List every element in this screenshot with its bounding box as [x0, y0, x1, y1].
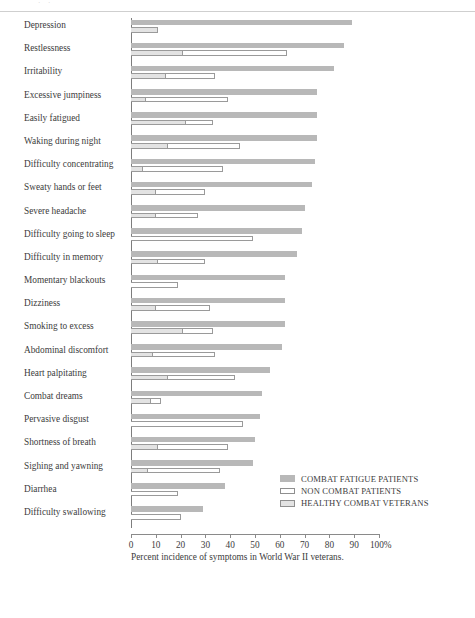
- bar-series-3: [131, 143, 168, 149]
- bar-series-3: [131, 27, 158, 33]
- axis-tick-label: 90: [350, 540, 359, 550]
- bar-row: Irritability: [0, 64, 475, 87]
- bar-group: [131, 366, 401, 389]
- axis-tick-label: 10: [151, 540, 160, 550]
- bar-series-1: [131, 298, 285, 304]
- bar-series-3: [131, 375, 168, 381]
- legend-swatch-icon: [280, 488, 295, 495]
- axis-tick: [280, 534, 281, 538]
- category-label: Easily fatigued: [24, 113, 128, 124]
- category-label: Severe headache: [24, 206, 128, 217]
- axis-tick: [255, 534, 256, 538]
- bar-series-3: [131, 468, 148, 474]
- bar-series-1: [131, 275, 285, 281]
- axis-tick: [329, 534, 330, 538]
- bar-series-3: [131, 97, 146, 103]
- bar-row: Smoking to excess: [0, 319, 475, 342]
- axis-tick-label: 40: [226, 540, 235, 550]
- bar-row: Easily fatigued: [0, 111, 475, 134]
- bar-group: [131, 250, 401, 273]
- bar-row: Pervasive disgust: [0, 412, 475, 435]
- bar-group: [131, 41, 401, 64]
- bar-series-1: [131, 66, 334, 72]
- axis-tick-label: 80: [325, 540, 334, 550]
- category-label: Sweaty hands or feet: [24, 182, 128, 193]
- category-label: Difficulty concentrating: [24, 159, 128, 170]
- axis-tick-label: 70: [300, 540, 309, 550]
- bar-series-1: [131, 483, 225, 489]
- bar-series-3: [131, 444, 158, 450]
- axis-tick: [131, 534, 132, 538]
- bar-series-3: [131, 73, 166, 79]
- bar-series-1: [131, 344, 282, 350]
- bar-row: Momentary blackouts: [0, 273, 475, 296]
- bar-series-1: [131, 159, 315, 165]
- chart-legend: COMBAT FATIGUE PATIENTSNON COMBAT PATIEN…: [280, 473, 470, 510]
- bar-series-2: [131, 282, 178, 288]
- legend-label: HEALTHY COMBAT VETERANS: [301, 498, 429, 508]
- bar-group: [131, 412, 401, 435]
- category-label: Combat dreams: [24, 391, 128, 402]
- legend-item: COMBAT FATIGUE PATIENTS: [280, 473, 470, 484]
- bar-row: Shortness of breath: [0, 435, 475, 458]
- category-label: Difficulty going to sleep: [24, 229, 128, 240]
- bar-group: [131, 227, 401, 250]
- axis-tick: [181, 534, 182, 538]
- bar-series-3: [131, 120, 186, 126]
- page-top-crop-text: · ·: [38, 0, 178, 7]
- bar-series-1: [131, 437, 255, 443]
- axis-tick: [230, 534, 231, 538]
- bar-row: Sweaty hands or feet: [0, 180, 475, 203]
- bar-group: [131, 273, 401, 296]
- figure-page: · · DepressionRestlessnessIrritabilityEx…: [0, 0, 475, 618]
- axis-tick-label: 0: [129, 540, 134, 550]
- bar-series-1: [131, 20, 352, 26]
- axis-tick-label: 50: [250, 540, 259, 550]
- bar-series-3: [131, 166, 143, 172]
- bar-group: [131, 18, 401, 41]
- bar-series-3: [131, 352, 153, 358]
- category-label: Heart palpitating: [24, 368, 128, 379]
- figure-caption: Percent incidence of symptoms in World W…: [131, 552, 451, 562]
- axis-tick-label: 30: [201, 540, 210, 550]
- bar-series-1: [131, 321, 285, 327]
- bar-group: [131, 389, 401, 412]
- legend-item: HEALTHY COMBAT VETERANS: [280, 498, 470, 509]
- category-label: Diarrhea: [24, 484, 128, 495]
- bar-series-1: [131, 89, 317, 95]
- bar-series-3: [131, 259, 158, 265]
- bar-series-1: [131, 251, 297, 257]
- bar-series-3: [131, 189, 156, 195]
- bar-rows: DepressionRestlessnessIrritabilityExcess…: [0, 18, 475, 528]
- axis-tick: [354, 534, 355, 538]
- legend-swatch-icon: [280, 475, 295, 482]
- bar-series-1: [131, 112, 317, 118]
- category-label: Shortness of breath: [24, 437, 128, 448]
- category-label: Dizziness: [24, 298, 128, 309]
- category-label: Excessive jumpiness: [24, 90, 128, 101]
- bar-group: [131, 204, 401, 227]
- bar-row: Dizziness: [0, 296, 475, 319]
- bar-series-3: [131, 328, 183, 334]
- axis-tick-label: 20: [176, 540, 185, 550]
- legend-swatch-icon: [280, 500, 295, 507]
- category-label: Sighing and yawning: [24, 461, 128, 472]
- bar-series-1: [131, 228, 302, 234]
- axis-tick: [205, 534, 206, 538]
- bar-series-2: [131, 166, 223, 172]
- legend-label: COMBAT FATIGUE PATIENTS: [301, 474, 418, 484]
- bar-group: [131, 134, 401, 157]
- bar-row: Depression: [0, 18, 475, 41]
- bar-series-1: [131, 391, 262, 397]
- category-label: Difficulty swallowing: [24, 507, 128, 518]
- bar-row: Difficulty going to sleep: [0, 227, 475, 250]
- bar-series-1: [131, 414, 260, 420]
- page-top-rule: [0, 11, 475, 12]
- bar-group: [131, 180, 401, 203]
- bar-group: [131, 319, 401, 342]
- bar-series-3: [131, 305, 156, 311]
- bar-row: Waking during night: [0, 134, 475, 157]
- bar-group: [131, 157, 401, 180]
- bar-series-2: [131, 236, 253, 242]
- bar-series-1: [131, 182, 312, 188]
